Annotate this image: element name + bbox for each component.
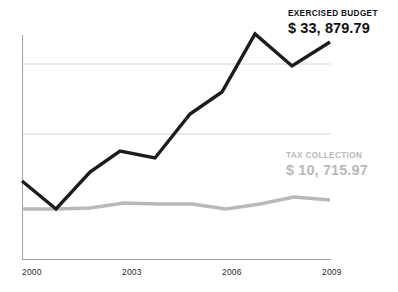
legend-tax-collection: TAX COLLECTION $ 10, 715.97	[286, 151, 368, 178]
x-tick-2006: 2006	[222, 267, 242, 277]
series-line-tax-collection	[22, 197, 330, 209]
line-chart-svg: 2000 2003 2006 2009	[0, 0, 398, 292]
legend-exercised-budget-value: $ 33, 879.79	[288, 20, 378, 36]
series-line-exercised-budget	[22, 34, 330, 209]
legend-tax-collection-title: TAX COLLECTION	[286, 151, 368, 161]
legend-exercised-budget-title: EXERCISED BUDGET	[288, 9, 378, 19]
x-tick-2003: 2003	[122, 267, 142, 277]
legend-tax-collection-value: $ 10, 715.97	[286, 162, 368, 178]
legend-exercised-budget: EXERCISED BUDGET $ 33, 879.79	[288, 9, 378, 36]
x-tick-2000: 2000	[22, 267, 42, 277]
x-tick-2009: 2009	[322, 267, 342, 277]
chart-container: 2000 2003 2006 2009 EXERCISED BUDGET $ 3…	[0, 0, 398, 292]
